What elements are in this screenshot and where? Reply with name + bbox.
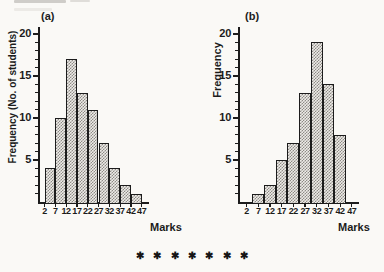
asterisk-icon: ✱	[153, 250, 161, 261]
y-minor-tick	[235, 42, 238, 43]
y-minor-tick	[235, 134, 238, 135]
y-minor-tick	[235, 176, 238, 177]
y-minor-tick	[235, 143, 238, 144]
x-tick-label: 7	[256, 206, 261, 216]
histogram-b: (b) Frequency 5101520271217222732374247 …	[0, 0, 384, 240]
x-tick-label: 42	[335, 206, 344, 216]
y-major-tick	[233, 117, 238, 118]
y-major-tick	[233, 75, 238, 76]
y-minor-tick	[235, 101, 238, 102]
y-tick-label: 5	[207, 153, 231, 165]
y-minor-tick	[235, 84, 238, 85]
panel-label-b: (b)	[245, 10, 259, 22]
asterisk-icon: ✱	[223, 250, 231, 261]
x-tick-label: 22	[289, 206, 298, 216]
y-minor-tick	[235, 109, 238, 110]
histogram-bar	[276, 160, 288, 204]
y-minor-tick	[235, 151, 238, 152]
x-axis-title-b: Marks	[338, 221, 370, 233]
y-tick-label: 20	[207, 27, 231, 39]
asterisk-icon: ✱	[240, 250, 248, 261]
x-tick-label: 12	[265, 206, 274, 216]
y-minor-tick	[235, 92, 238, 93]
histogram-bar	[323, 84, 335, 203]
asterisk-separator-row: ✱✱✱✱✱✱✱	[136, 250, 248, 260]
y-minor-tick	[235, 185, 238, 186]
asterisk-icon: ✱	[205, 250, 213, 261]
asterisk-icon: ✱	[171, 250, 179, 261]
x-tick-label: 17	[277, 206, 286, 216]
x-tick-label: 32	[312, 206, 321, 216]
scanned-figure-page: (a) Frequency (No. of students) 51015202…	[0, 0, 384, 272]
histogram-bar	[299, 93, 311, 204]
y-major-tick	[233, 33, 238, 34]
y-minor-tick	[235, 67, 238, 68]
y-tick-label: 15	[207, 69, 231, 81]
y-tick-label: 10	[207, 111, 231, 123]
x-tick-label: 2	[244, 206, 249, 216]
y-minor-tick	[235, 50, 238, 51]
y-minor-tick	[235, 193, 238, 194]
histogram-bar	[334, 135, 346, 204]
asterisk-icon: ✱	[188, 250, 196, 261]
y-minor-tick	[235, 126, 238, 127]
histogram-bar	[287, 143, 299, 203]
x-tick-label: 37	[324, 206, 333, 216]
histogram-bar	[252, 194, 264, 204]
y-minor-tick	[235, 168, 238, 169]
asterisk-icon: ✱	[136, 250, 144, 261]
x-tick-label: 27	[300, 206, 309, 216]
histogram-bar	[311, 42, 323, 203]
y-major-tick	[233, 159, 238, 160]
x-tick-label: 47	[347, 206, 356, 216]
histogram-bar	[264, 185, 276, 203]
y-minor-tick	[235, 59, 238, 60]
y-axis	[238, 27, 240, 204]
